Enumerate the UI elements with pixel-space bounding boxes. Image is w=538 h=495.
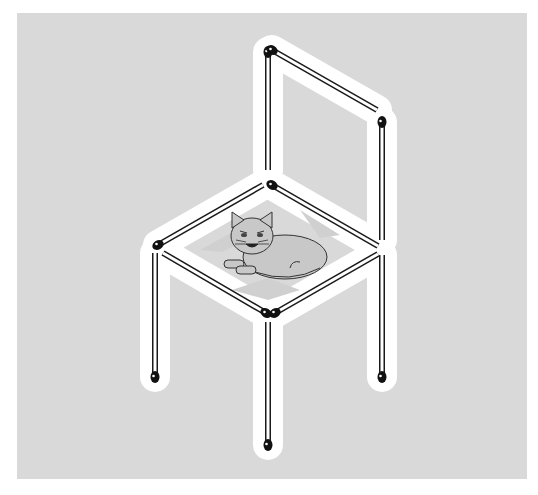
cat-paw-right xyxy=(236,266,256,274)
match-head-icon xyxy=(151,371,160,383)
match-head-icon xyxy=(378,116,387,128)
match-head-icon xyxy=(378,371,387,383)
cat-eye-right xyxy=(257,233,263,237)
matchstick-chair-puzzle xyxy=(0,0,538,495)
cat-eye-left xyxy=(241,233,247,237)
match-head-icon xyxy=(264,439,273,451)
